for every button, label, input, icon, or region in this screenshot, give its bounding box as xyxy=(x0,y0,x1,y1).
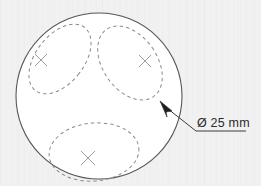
plate-outline-circle xyxy=(16,13,182,179)
diameter-dimension-label: Ø 25 mm xyxy=(197,116,250,130)
technical-drawing-canvas: Ø 25 mm xyxy=(0,0,261,186)
cad-drawing-svg: Ø 25 mm xyxy=(0,0,261,186)
